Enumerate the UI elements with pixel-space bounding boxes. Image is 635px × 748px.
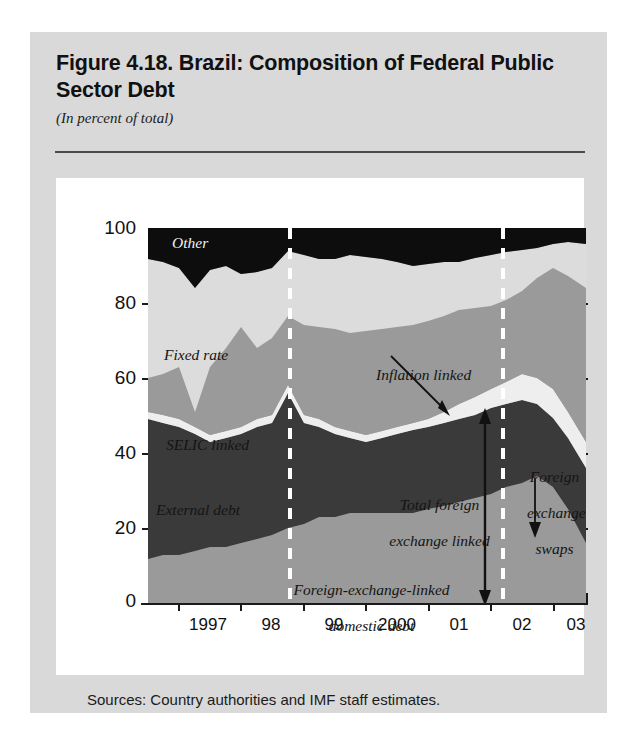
x-tick-mark-02 [490,604,492,611]
figure-subtitle: (In percent of total) [56,110,173,127]
fx-linked-domestic-label: Foreign-exchange-linked domestic debt [246,563,466,653]
y-tick-label-60: 60 [84,367,136,389]
total-fx-linked-line2: exchange linked [389,532,489,549]
y-tick-label-100: 100 [84,217,136,239]
x-tick-label-1997: 1997 [189,615,227,635]
figure-root: Figure 4.18. Brazil: Composition of Fede… [0,0,635,748]
x-tick-label-02: 02 [513,615,532,635]
x-axis-left-cap [141,603,149,605]
y-tick-label-80: 80 [84,292,136,314]
x-axis-right-cap [586,593,588,605]
x-tick-label-03: 03 [567,615,586,635]
x-tick-mark-98 [240,604,242,611]
fx-domestic-line2: domestic debt [329,617,415,634]
inflation-linked-label: Inflation linked [376,366,471,384]
fx-swaps-line3: swaps [536,540,574,557]
figure-panel: Figure 4.18. Brazil: Composition of Fede… [30,32,607,713]
fx-domestic-line1: Foreign-exchange-linked [293,581,449,598]
page-title: Figure 4.18. Brazil: Composition of Fede… [56,50,576,104]
selic-linked-label: SELIC linked [166,436,249,454]
source-note: Sources: Country authorities and IMF sta… [87,691,440,708]
fx-swaps-line1: Foreign [530,468,579,485]
chart-card: 100 80 60 40 20 0 [56,178,584,675]
fx-swaps-label: Foreign exchange swaps [496,450,582,576]
x-tick-mark-03 [553,604,555,611]
y-tick-label-20: 20 [84,517,136,539]
x-tick-mark-1997 [178,604,180,611]
fx-swaps-line2: exchange [527,504,586,521]
total-fx-linked-line1: Total foreign [400,496,479,513]
total-fx-linked-label: Total foreign exchange linked [344,478,504,568]
external-debt-label: External debt [156,501,240,519]
y-tick-label-0: 0 [84,590,136,612]
fixed-rate-label: Fixed rate [164,346,228,364]
other-label: Other [172,234,208,252]
title-divider [55,151,585,153]
y-tick-label-40: 40 [84,442,136,464]
